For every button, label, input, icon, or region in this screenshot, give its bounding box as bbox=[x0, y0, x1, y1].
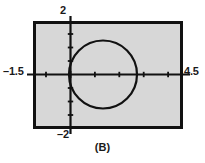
plot-canvas bbox=[0, 0, 205, 163]
y-axis-max-label: 2 bbox=[60, 5, 66, 16]
y-axis-min-label: –2 bbox=[57, 129, 69, 140]
x-axis-max-label: 4.5 bbox=[184, 66, 199, 77]
figure-panel: 2 –2 –1.5 4.5 (B) bbox=[0, 0, 205, 163]
x-axis-min-label: –1.5 bbox=[3, 66, 24, 77]
figure-caption: (B) bbox=[0, 142, 205, 153]
